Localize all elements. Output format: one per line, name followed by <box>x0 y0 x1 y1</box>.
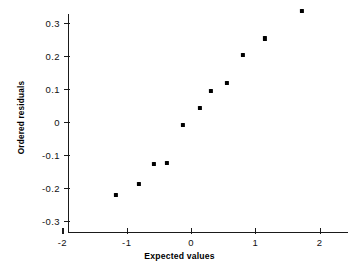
x-tick-label: 2 <box>317 237 323 248</box>
y-tick-label: -0.2 <box>22 182 60 193</box>
x-tick-label: 0 <box>188 237 194 248</box>
y-tick-label: 0.3 <box>22 17 60 28</box>
data-point <box>241 53 245 57</box>
plot-area: -0.3-0.2-0.100.10.20.3 -2-1012 <box>0 0 359 270</box>
y-axis-title: Ordered residuals <box>17 48 26 188</box>
normal-probability-plot: -0.3-0.2-0.100.10.20.3 -2-1012 Expected … <box>0 0 359 270</box>
x-tick-mark <box>320 228 321 234</box>
y-tick-mark <box>64 56 70 57</box>
y-axis-line <box>68 14 69 233</box>
x-tick-mark <box>127 228 128 234</box>
x-tick-mark <box>62 228 63 234</box>
y-tick-label: -0.3 <box>22 215 60 226</box>
y-tick-mark <box>64 89 70 90</box>
data-point <box>137 182 141 186</box>
x-tick-label: 1 <box>252 237 258 248</box>
data-point <box>198 106 202 110</box>
data-point <box>209 89 213 93</box>
data-point <box>181 123 185 127</box>
data-point <box>263 36 267 40</box>
x-tick-mark <box>191 228 192 234</box>
data-point <box>165 161 169 165</box>
y-tick-label: 0.2 <box>22 50 60 61</box>
x-axis-line <box>68 232 348 233</box>
data-point <box>225 81 229 85</box>
data-point <box>152 162 156 166</box>
data-point <box>114 193 118 197</box>
x-tick-mark <box>255 228 256 234</box>
y-tick-mark <box>64 155 70 156</box>
y-tick-mark <box>64 122 70 123</box>
y-tick-label: 0.1 <box>22 83 60 94</box>
y-tick-label: 0 <box>22 116 60 127</box>
data-point <box>300 9 304 13</box>
x-tick-label: -2 <box>58 237 67 248</box>
y-tick-mark <box>64 221 70 222</box>
y-tick-label: -0.1 <box>22 149 60 160</box>
y-tick-mark <box>64 23 70 24</box>
x-axis-title: Expected values <box>0 251 359 261</box>
y-tick-mark <box>64 188 70 189</box>
x-tick-label: -1 <box>122 237 131 248</box>
